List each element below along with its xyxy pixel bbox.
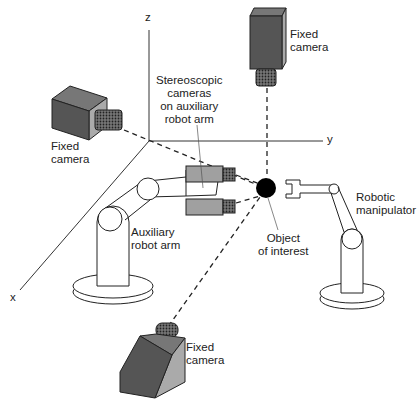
label-fixed-camera-bottom: Fixed camera bbox=[186, 341, 224, 367]
fixed-camera-left bbox=[52, 86, 122, 140]
x-axis-label: x bbox=[10, 291, 16, 304]
z-axis-label: z bbox=[145, 11, 151, 24]
label-auxiliary-robot-arm: Auxiliary robot arm bbox=[131, 226, 180, 252]
label-object-of-interest: Object of interest bbox=[258, 232, 309, 258]
label-stereoscopic-cameras: Stereoscopic cameras on auxiliary robot … bbox=[156, 74, 222, 126]
fixed-camera-bottom bbox=[120, 323, 185, 398]
y-axis-label: y bbox=[327, 133, 333, 146]
object-of-interest bbox=[256, 178, 276, 198]
fixed-camera-top bbox=[250, 8, 286, 86]
label-fixed-camera-top: Fixed camera bbox=[290, 28, 328, 54]
label-fixed-camera-left: Fixed camera bbox=[51, 140, 89, 166]
label-robotic-manipulator: Robotic manipulator bbox=[356, 191, 416, 217]
